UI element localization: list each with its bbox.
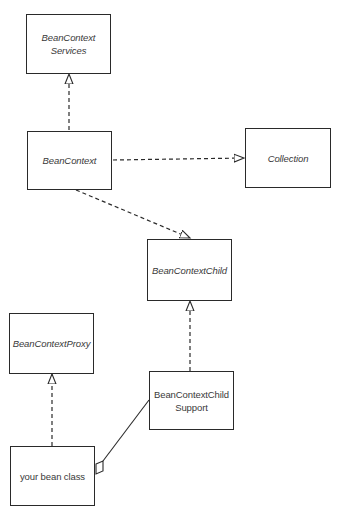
class-label: BeanContextProxy bbox=[13, 337, 91, 350]
class-box-beancontext: BeanContext bbox=[27, 131, 112, 190]
class-box-beancontext-proxy: BeanContextProxy bbox=[9, 313, 94, 374]
class-box-your-bean-class: your bean class bbox=[10, 446, 95, 506]
class-label: Collection bbox=[268, 152, 309, 165]
class-label: BeanContextChild Support bbox=[154, 388, 229, 414]
class-label: BeanContext Services bbox=[42, 31, 96, 57]
class-label: BeanContext bbox=[43, 154, 97, 167]
class-label: your bean class bbox=[20, 470, 85, 483]
class-box-beancontext-services: BeanContext Services bbox=[26, 14, 111, 74]
aggregation-line-yourbean-to-support bbox=[103, 400, 149, 461]
class-label: BeanContextChild bbox=[152, 264, 227, 277]
realization-arrow-beancontext-to-collection bbox=[113, 158, 244, 160]
uml-diagram: BeanContext Services BeanContext Collect… bbox=[0, 0, 340, 515]
aggregation-diamond-icon bbox=[96, 461, 103, 474]
class-box-beancontext-child: BeanContextChild bbox=[147, 239, 232, 301]
class-box-collection: Collection bbox=[245, 128, 331, 188]
class-box-beancontext-child-support: BeanContextChild Support bbox=[149, 371, 234, 430]
realization-arrow-beancontext-to-child bbox=[76, 190, 190, 238]
